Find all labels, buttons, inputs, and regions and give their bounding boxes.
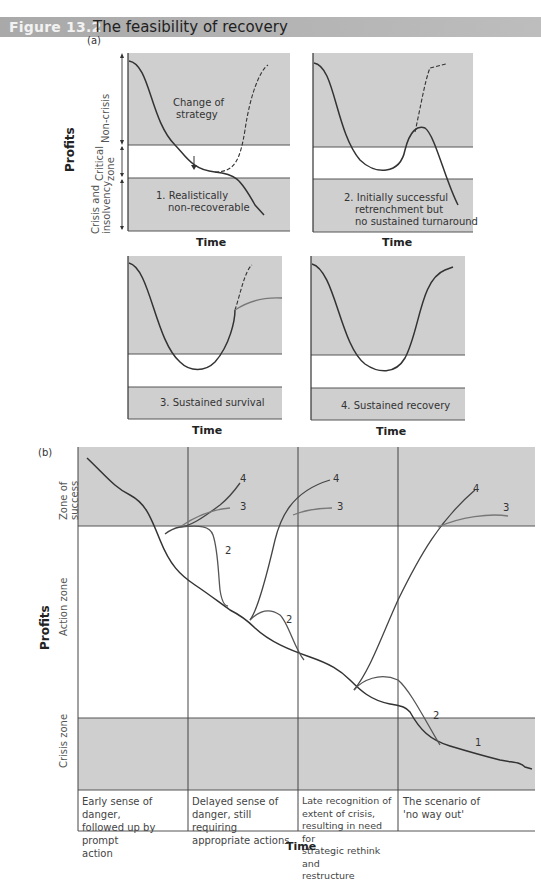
curve-label-4-stage3: 4 [473,483,479,494]
chart-3-x-axis-label: Time [192,424,222,437]
panel-b-x-axis-label: Time [286,840,316,853]
chart-2-caption-line3: no sustained turnaround [355,216,478,227]
panel-a-y-axis-label: Profits [63,92,77,172]
chart-4 [311,256,465,420]
chart-2-caption-line2: retrenchment but [355,204,443,215]
chart-1-x-axis-label: Time [196,236,226,249]
chart-3 [128,256,282,419]
panel-b-label: (b) [38,447,52,458]
zone-of-success-label: Zone of success [58,440,80,520]
chart-2-x-axis-label: Time [382,236,412,249]
stage-3-description: Late recognition of extent of crisis, re… [302,795,398,883]
curve-label-2-stage1: 2 [225,545,231,556]
chart-3-caption: 3. Sustained survival [160,397,265,408]
change-of-strategy-line2: strategy [176,109,218,120]
curve-label-3-stage1: 3 [240,501,246,512]
curve-label-4-stage1: 4 [240,473,246,484]
panel-b-y-axis-label: Profits [38,570,52,650]
stage-2-description: Delayed sense of danger, still requiring… [192,795,296,847]
curve-label-4-stage2: 4 [333,473,339,484]
chart-1-caption-line2: non-recoverable [168,202,250,213]
zone-non-crisis-label: Non-crisis [100,53,111,143]
chart-4-caption: 4. Sustained recovery [341,400,450,411]
curve-label-1: 1 [475,737,481,748]
crisis-zone-label: Crisis zone [58,688,69,768]
chart-4-x-axis-label: Time [376,425,406,438]
panel-b-graphics [78,447,535,831]
chart-1-caption-line1: 1. Realistically [156,190,228,201]
curve-label-3-stage2: 3 [337,501,343,512]
change-of-strategy-line1: Change of [173,97,224,108]
curve-label-3-stage3: 3 [503,502,509,513]
curve-label-2-stage3: 2 [433,710,439,721]
curve-label-2-stage2: 2 [286,614,292,625]
stage-1-description: Early sense of danger, followed up by pr… [82,795,186,860]
chart-2-caption-line1: 2. Initially successful [344,192,448,203]
panel-a-label: (a) [87,35,101,46]
zone-critical-label: Critical zone [94,141,116,181]
stage-4-description: The scenario of 'no way out' [403,795,533,821]
zone-crisis-insolvency-label: Crisis and insolvency [90,178,112,234]
action-zone-label: Action zone [58,556,69,636]
